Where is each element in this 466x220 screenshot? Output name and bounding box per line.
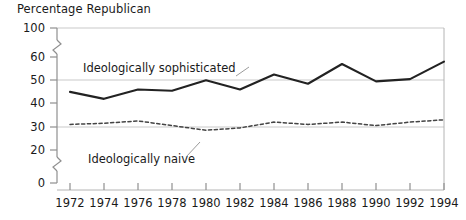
x-tick-label-1978: 1978 [157, 196, 186, 210]
y-axis [53, 28, 61, 183]
x-tick-label-1980: 1980 [191, 196, 220, 210]
x-tick-label-1976: 1976 [123, 196, 152, 210]
line-chart-plot: 100 60 50 40 30 20 0 [0, 0, 466, 220]
series-line-ideologically-naive [70, 120, 444, 130]
x-tick-label-1982: 1982 [225, 196, 254, 210]
leader-line-sophisticated [236, 67, 249, 76]
x-tick-label-1972: 1972 [55, 196, 84, 210]
gridlines [57, 28, 444, 127]
x-tick-label-1974: 1974 [89, 196, 118, 210]
x-tick-label-1992: 1992 [395, 196, 424, 210]
x-tick-label-1994: 1994 [429, 196, 458, 210]
axis-break-upper-icon [53, 40, 61, 54]
y-tick-label-50: 50 [30, 73, 45, 87]
axis-break-lower-icon [53, 157, 61, 171]
y-tick-label-100: 100 [23, 21, 45, 35]
x-tick-label-1986: 1986 [293, 196, 322, 210]
y-axis-tick-labels: 100 60 50 40 30 20 0 [23, 21, 45, 190]
chart-container: Percentage Republican 100 [0, 0, 466, 220]
y-tick-label-0: 0 [38, 176, 45, 190]
x-tick-label-1990: 1990 [361, 196, 390, 210]
y-tick-label-60: 60 [30, 50, 45, 64]
series-label-ideologically-naive: Ideologically naive [88, 152, 195, 166]
annotation-sophisticated: Ideologically sophisticated [83, 61, 249, 76]
y-tick-label-40: 40 [30, 96, 45, 110]
x-axis-ticks [70, 183, 444, 190]
x-tick-label-1984: 1984 [259, 196, 288, 210]
y-tick-label-30: 30 [30, 120, 45, 134]
annotation-naive: Ideologically naive [88, 142, 200, 166]
x-tick-label-1988: 1988 [327, 196, 356, 210]
series-label-ideologically-sophisticated: Ideologically sophisticated [83, 61, 236, 75]
x-axis-tick-labels: 1972 1974 1976 1978 1980 1982 1984 1986 … [55, 196, 458, 210]
y-tick-label-20: 20 [30, 143, 45, 157]
